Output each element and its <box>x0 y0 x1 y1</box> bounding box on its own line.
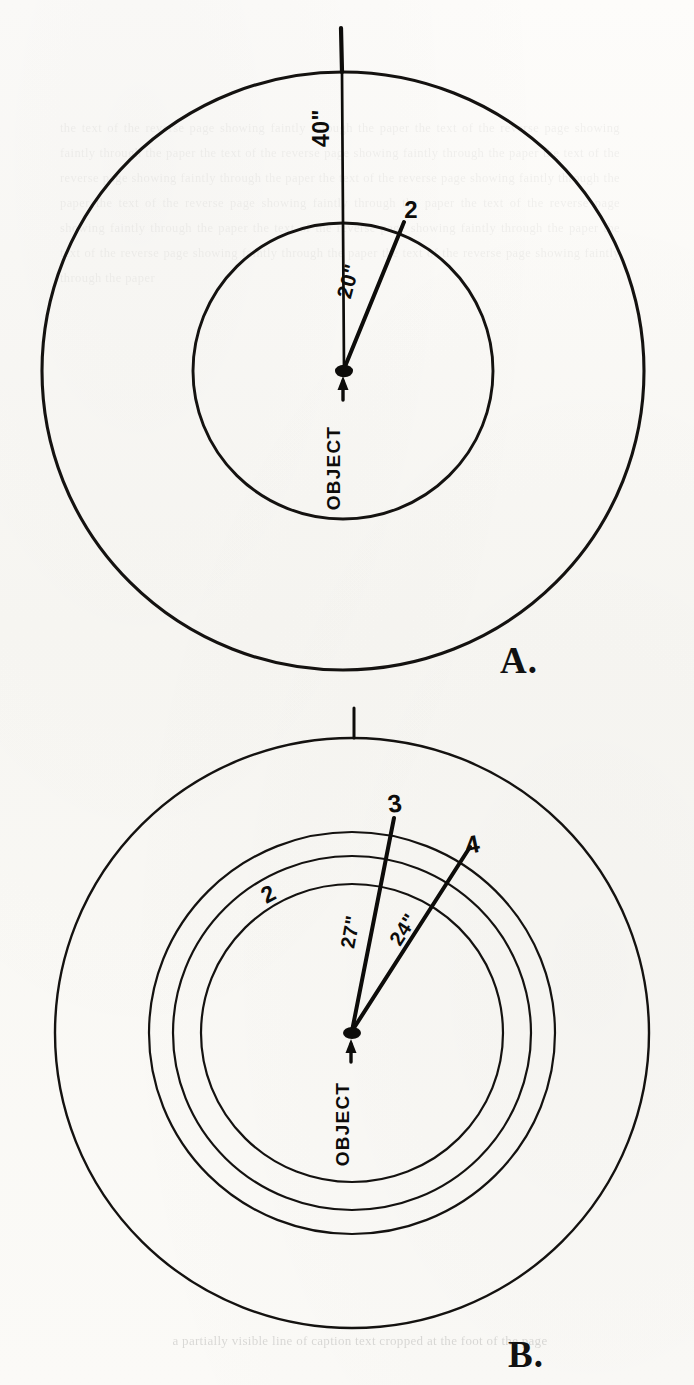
panel-a-label-40: 40" <box>308 109 334 147</box>
panel-b: 27" 24" 3 4 2 OBJECT B. <box>55 708 649 1375</box>
panel-b-object-arrow-icon <box>346 1039 357 1062</box>
panel-a-radius-to-1 <box>342 72 344 369</box>
panel-b-ring-number-2: 2 <box>256 879 280 908</box>
panel-b-center-dot <box>343 1027 361 1039</box>
panel-b-plate-label: B. <box>508 1334 544 1375</box>
figure-svg: 40" 20" 2 OBJECT A. <box>0 0 694 1385</box>
panel-a-endpoint-label-2: 2 <box>404 196 417 223</box>
panel-b-object-label: OBJECT <box>332 1082 353 1166</box>
panel-a-center-dot <box>335 365 353 377</box>
figure-page: the text of the reverse page showing fai… <box>0 0 694 1385</box>
panel-b-label-24: 24" <box>385 909 422 949</box>
panel-a-label-20: 20" <box>332 261 363 301</box>
panel-b-endpoint-label-3: 3 <box>386 788 404 818</box>
panel-a-object-label: OBJECT <box>323 426 344 510</box>
panel-a: 40" 20" 2 OBJECT A. <box>42 28 644 681</box>
panel-a-object-arrow-icon <box>338 376 349 400</box>
panel-a-plate-label: A. <box>500 640 538 681</box>
panel-b-label-27: 27" <box>336 914 363 951</box>
panel-a-tick-1 <box>341 28 342 72</box>
